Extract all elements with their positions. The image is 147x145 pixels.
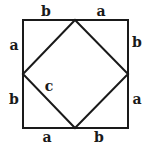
pythagorean-diagram: b a a b b a a b c — [0, 0, 147, 145]
label-bottom-right: b — [94, 129, 104, 145]
label-top-left: b — [41, 3, 51, 19]
label-hypotenuse: c — [45, 78, 54, 94]
inner-square — [23, 20, 128, 128]
label-left-bottom: b — [9, 91, 19, 107]
outer-square — [23, 20, 128, 128]
label-left-top: a — [9, 37, 18, 53]
label-top-right: a — [96, 3, 105, 19]
label-bottom-left: a — [42, 129, 51, 145]
label-right-bottom: a — [132, 91, 141, 107]
label-right-top: b — [132, 34, 142, 50]
